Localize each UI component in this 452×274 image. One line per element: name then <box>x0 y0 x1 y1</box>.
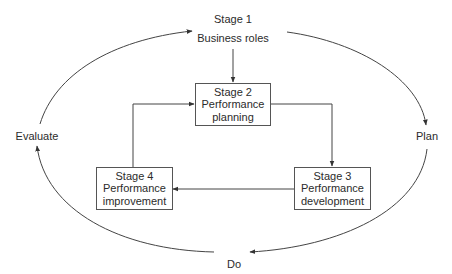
phase-do-label: Do <box>222 258 246 271</box>
arc-evaluate-to-stage1 <box>40 31 192 124</box>
stage2-line2: planning <box>212 111 254 124</box>
stage1-title: Stage 1 <box>203 13 263 26</box>
arc-stage1-to-plan <box>287 32 426 125</box>
stage2-title: Stage 2 <box>214 86 252 99</box>
arrow-stage4-to-stage2 <box>133 104 194 167</box>
phase-evaluate-label: Evaluate <box>12 130 62 143</box>
stage3-box: Stage 3 Performance development <box>294 167 371 210</box>
stage3-title: Stage 3 <box>314 170 352 183</box>
stage4-line2: improvement <box>103 195 167 208</box>
stage4-line1: Performance <box>103 182 166 195</box>
stage3-line2: development <box>301 195 364 208</box>
performance-cycle-diagram: Stage 1 Business roles Plan Do Evaluate … <box>0 0 452 274</box>
phase-plan-label: Plan <box>410 130 444 143</box>
stage1-subtitle: Business roles <box>188 32 278 45</box>
stage2-line1: Performance <box>202 98 265 111</box>
stage2-box: Stage 2 Performance planning <box>195 83 271 126</box>
stage3-line1: Performance <box>301 182 364 195</box>
stage4-box: Stage 4 Performance improvement <box>96 167 173 210</box>
arrow-stage2-to-stage3 <box>270 104 332 166</box>
stage4-title: Stage 4 <box>116 170 154 183</box>
